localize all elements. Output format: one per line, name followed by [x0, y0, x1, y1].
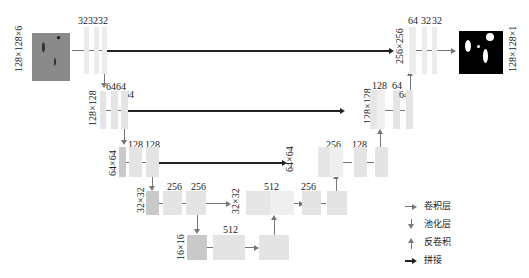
enc5-size-label: 16×16 — [176, 234, 186, 260]
upconv-arrow-icon — [408, 238, 414, 243]
input-size-label: 128×128×6 — [14, 26, 24, 72]
dec2-block-1 — [370, 90, 385, 129]
legend-concat-label: 拼接 — [424, 255, 442, 265]
enc2-block-3 — [121, 91, 128, 129]
dec4-block-2 — [302, 191, 321, 215]
dec3-size-label: 64×64 — [285, 146, 295, 172]
dec1-ch-3: 32 — [432, 16, 442, 26]
enc2-size-label: 128×128 — [88, 90, 98, 126]
bottom-ch-1: 512 — [223, 225, 238, 235]
dec1-block-1 — [409, 27, 416, 74]
enc3-block-1 — [119, 147, 126, 177]
enc1-channels-label: 323232 — [78, 16, 108, 26]
dec3-block-3 — [375, 147, 388, 177]
concat-arrow-icon — [412, 258, 417, 264]
bottom-block-2 — [213, 235, 245, 260]
legend-upconv-label: 反卷积 — [424, 237, 451, 247]
skip-connection-1 — [107, 50, 389, 52]
skip-connection-3 — [159, 162, 282, 164]
enc3-block-3 — [146, 147, 159, 177]
enc4-block-2 — [163, 191, 182, 215]
bottom-block-1 — [187, 235, 207, 260]
dec3-block-2 — [354, 147, 367, 177]
enc3-block-2 — [129, 147, 142, 177]
enc4-block-3 — [186, 191, 206, 215]
enc4-size-label: 32×32 — [136, 187, 146, 213]
legend-conv-label: 卷积层 — [424, 201, 451, 211]
dec1-ch-2: 32 — [421, 16, 431, 26]
enc2-block-2 — [111, 91, 118, 129]
enc4-block-1 — [146, 191, 159, 215]
dec2-block-3 — [406, 90, 413, 129]
dec1-size-label: 256×256 — [395, 28, 405, 64]
enc3-size-label: 64×64 — [108, 150, 118, 176]
legend-pool-label: 池化层 — [424, 219, 451, 229]
output-mask-image — [459, 31, 503, 74]
dec4-block-1 — [246, 191, 294, 215]
conv-arrow-icon — [412, 204, 417, 210]
dec1-ch-1: 64 — [408, 16, 418, 26]
dec4-block-3 — [327, 191, 347, 215]
dec3-block-1 — [318, 147, 343, 177]
bottom-block-3 — [259, 235, 289, 260]
skip-connection-2 — [128, 110, 340, 112]
input-image — [32, 33, 70, 81]
dec4-size-label: 32×32 — [231, 188, 241, 214]
output-size-label: 128×128×1 — [508, 26, 518, 72]
pool-arrow-icon — [408, 224, 414, 229]
